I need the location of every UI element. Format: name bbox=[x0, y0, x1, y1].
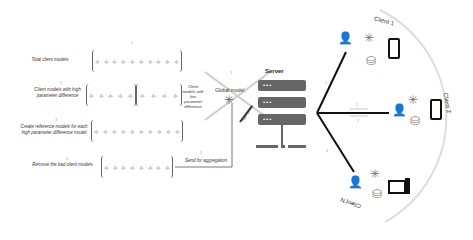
client-n-database-icon: ⛁ bbox=[372, 188, 382, 200]
client-2-user-icon: 👤 bbox=[392, 104, 407, 116]
server-rack-3: ••• bbox=[258, 114, 306, 125]
link-number: 2 bbox=[357, 118, 359, 123]
global-model-number: 1 bbox=[230, 70, 232, 75]
link-number: 1 bbox=[325, 80, 327, 85]
client-n-user-icon: 👤 bbox=[348, 176, 363, 188]
client-1-database-icon: ⛁ bbox=[366, 55, 376, 67]
client-2-phone-icon bbox=[430, 99, 442, 120]
client-n-tower-icon bbox=[405, 178, 410, 194]
link-number: 1 bbox=[356, 102, 358, 107]
client-1-phone-icon bbox=[388, 38, 400, 59]
client-n-model-icon: ✳ bbox=[370, 168, 380, 180]
server-base-mid bbox=[281, 145, 285, 148]
client-2-model-icon: ✳ bbox=[408, 94, 418, 106]
link-number: 3 bbox=[326, 148, 328, 153]
server-led-dots: ••• bbox=[263, 100, 272, 105]
server-led-dots: ••• bbox=[263, 117, 272, 122]
client-1-user-icon: 👤 bbox=[338, 32, 353, 44]
global-model-network-icon: ✳ bbox=[224, 94, 234, 106]
client-1-model-icon: ✳ bbox=[364, 32, 374, 44]
client-n-monitor-icon bbox=[388, 180, 406, 194]
link-client-n bbox=[317, 113, 354, 172]
client-2-database-icon: ⛁ bbox=[410, 115, 420, 127]
server-led-dots: ••• bbox=[263, 83, 272, 88]
server-rack-1: ••• bbox=[258, 80, 306, 91]
server-base-left bbox=[256, 145, 278, 148]
server-title: Server bbox=[265, 68, 284, 74]
server-stand bbox=[281, 125, 283, 145]
server-rack-2: ••• bbox=[258, 97, 306, 108]
link-client-1 bbox=[317, 52, 346, 113]
server-base-right bbox=[288, 145, 306, 148]
